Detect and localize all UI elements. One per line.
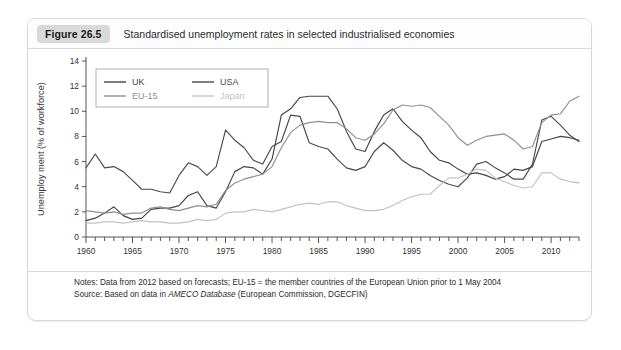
- chart-plot-area: 02468101214 1960196519701975198019851990…: [28, 49, 591, 271]
- footer-notes: Notes: Data from 2012 based on forecasts…: [74, 277, 591, 289]
- figure-card: Figure 26.5 Standardised unemployment ra…: [27, 18, 592, 321]
- footer-notes-text: Data from 2012 based on forecasts; EU-15…: [98, 278, 501, 287]
- svg-text:1975: 1975: [216, 246, 235, 256]
- legend-label-uk: UK: [132, 77, 145, 87]
- unemployment-line-chart: 02468101214 1960196519701975198019851990…: [28, 49, 591, 271]
- y-axis: 02468101214: [70, 56, 86, 242]
- legend-label-usa: USA: [220, 77, 239, 87]
- svg-text:6: 6: [74, 157, 79, 167]
- svg-text:0: 0: [74, 232, 79, 242]
- figure-number-badge: Figure 26.5: [37, 25, 110, 43]
- svg-text:1960: 1960: [77, 246, 96, 256]
- svg-text:10: 10: [70, 106, 80, 116]
- series-line-eu-15: [86, 96, 579, 214]
- chart-series: [86, 96, 579, 223]
- footer-source-post: (European Commission, DGECFIN): [236, 290, 368, 299]
- svg-text:2: 2: [74, 207, 79, 217]
- svg-text:1995: 1995: [402, 246, 421, 256]
- figure-header: Figure 26.5 Standardised unemployment ra…: [28, 19, 591, 49]
- svg-text:8: 8: [74, 131, 79, 141]
- svg-text:1970: 1970: [170, 246, 189, 256]
- svg-text:1965: 1965: [123, 246, 142, 256]
- y-axis-title: Unemploy ment (% of workforce): [36, 82, 46, 216]
- svg-text:1980: 1980: [263, 246, 282, 256]
- svg-text:1990: 1990: [356, 246, 375, 256]
- footer-source: Source: Based on data in AMECO Database …: [74, 289, 591, 301]
- svg-text:1985: 1985: [309, 246, 328, 256]
- legend-label-eu-15: EU-15: [132, 91, 158, 101]
- legend-label-japan: Japan: [220, 91, 245, 101]
- footer-source-label: Source:: [74, 290, 102, 299]
- svg-text:14: 14: [70, 56, 80, 66]
- chart-legend: UKUSAEU-15Japan: [96, 69, 268, 107]
- x-axis: 1960196519701975198019851990199520002005…: [77, 237, 579, 256]
- svg-text:2010: 2010: [542, 246, 561, 256]
- svg-text:4: 4: [74, 182, 79, 192]
- footer-source-database: AMECO Database: [168, 290, 235, 299]
- figure-footer: Notes: Data from 2012 based on forecasts…: [28, 271, 591, 321]
- svg-text:2000: 2000: [449, 246, 468, 256]
- figure-title: Standardised unemployment rates in selec…: [124, 28, 455, 40]
- footer-source-pre: Based on data in: [102, 290, 168, 299]
- footer-notes-label: Notes:: [74, 278, 98, 287]
- svg-text:2005: 2005: [495, 246, 514, 256]
- svg-text:12: 12: [70, 81, 80, 91]
- series-line-japan: [86, 169, 579, 223]
